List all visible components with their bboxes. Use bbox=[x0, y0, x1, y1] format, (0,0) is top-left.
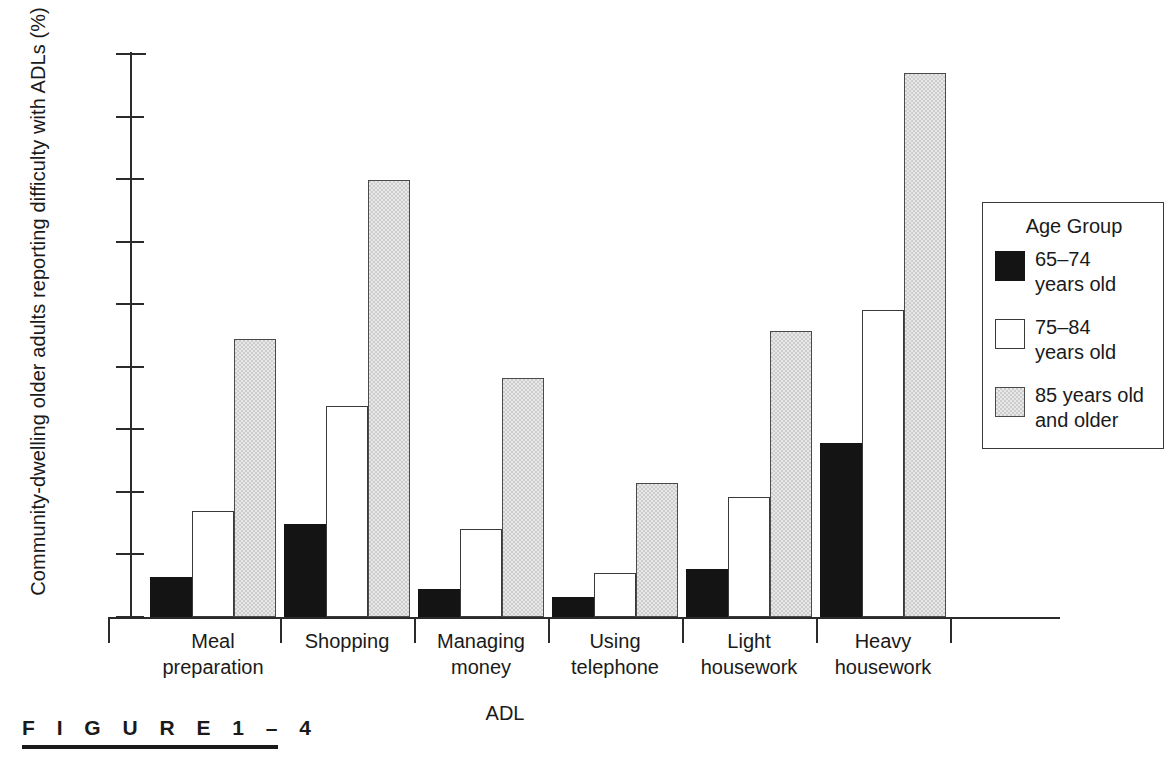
x-axis-category-label-line: money bbox=[418, 654, 544, 680]
legend-entry-label-line: and older bbox=[1035, 408, 1165, 433]
x-axis-category-label: Shopping bbox=[284, 628, 410, 654]
figure-caption-label: F I G U R E 1 – 4 bbox=[22, 716, 319, 740]
legend-swatch-black bbox=[995, 251, 1025, 281]
bar bbox=[502, 378, 544, 617]
x-axis-category-label: Lighthousework bbox=[686, 628, 812, 680]
figure-container: Community-dwelling older adults reportin… bbox=[0, 0, 1176, 779]
legend-entry-label-line: 75–84 bbox=[1035, 315, 1165, 340]
x-axis-category-labels: MealpreparationShoppingManagingmoneyUsin… bbox=[112, 628, 972, 690]
x-axis-category-label-line: Light bbox=[686, 628, 812, 654]
bar bbox=[686, 569, 728, 617]
legend-entry-label-line: years old bbox=[1035, 272, 1165, 297]
bar bbox=[150, 577, 192, 617]
y-axis-title: Community-dwelling older adults reportin… bbox=[27, 2, 50, 602]
x-axis-category-label-line: housework bbox=[820, 654, 946, 680]
x-axis-category-label-line: Meal bbox=[150, 628, 276, 654]
bar bbox=[368, 180, 410, 617]
legend-title: Age Group bbox=[983, 215, 1165, 238]
bar bbox=[326, 406, 368, 617]
bar bbox=[728, 497, 770, 617]
legend-entry-label-line: years old bbox=[1035, 340, 1165, 365]
x-axis-category-label-line: Heavy bbox=[820, 628, 946, 654]
legend-swatch-gray bbox=[995, 387, 1025, 417]
bar bbox=[418, 589, 460, 617]
bar-series-container bbox=[130, 54, 930, 617]
legend-entry[interactable]: 85 years oldand older bbox=[995, 385, 1155, 441]
figure-caption-rule bbox=[22, 745, 278, 749]
x-axis-category-label-line: telephone bbox=[552, 654, 678, 680]
x-axis-category-label-line: Shopping bbox=[284, 628, 410, 654]
legend-swatch-white bbox=[995, 319, 1025, 349]
bar bbox=[284, 524, 326, 617]
bar bbox=[234, 339, 276, 617]
legend-entry-label: 85 years oldand older bbox=[1035, 383, 1165, 433]
x-axis-category-label-line: Managing bbox=[418, 628, 544, 654]
legend-entry-label-line: 85 years old bbox=[1035, 383, 1165, 408]
x-axis-category-label-line: housework bbox=[686, 654, 812, 680]
legend-entry[interactable]: 75–84years old bbox=[995, 317, 1155, 373]
figure-caption: F I G U R E 1 – 4 bbox=[22, 716, 319, 749]
legend-entry-label-line: 65–74 bbox=[1035, 247, 1165, 272]
legend-entry-label: 65–74years old bbox=[1035, 247, 1165, 297]
group-separator-tick bbox=[108, 617, 110, 643]
x-axis-category-label-line: Using bbox=[552, 628, 678, 654]
x-axis-category-label-line: preparation bbox=[150, 654, 276, 680]
legend-entry[interactable]: 65–74years old bbox=[995, 249, 1155, 305]
bar bbox=[636, 483, 678, 617]
x-axis-line bbox=[108, 617, 1060, 619]
bar bbox=[862, 310, 904, 617]
x-axis-category-label: Heavyhousework bbox=[820, 628, 946, 680]
bar bbox=[770, 331, 812, 618]
x-axis-category-label: Usingtelephone bbox=[552, 628, 678, 680]
bar bbox=[552, 597, 594, 617]
x-axis-category-label: Mealpreparation bbox=[150, 628, 276, 680]
legend: Age Group 65–74years old75–84years old85… bbox=[982, 202, 1164, 449]
legend-entry-label: 75–84years old bbox=[1035, 315, 1165, 365]
bar bbox=[594, 573, 636, 617]
bar bbox=[904, 73, 946, 617]
x-axis-category-label: Managingmoney bbox=[418, 628, 544, 680]
bar bbox=[460, 529, 502, 617]
bar bbox=[820, 443, 862, 617]
plot-area bbox=[130, 54, 930, 617]
bar bbox=[192, 511, 234, 617]
